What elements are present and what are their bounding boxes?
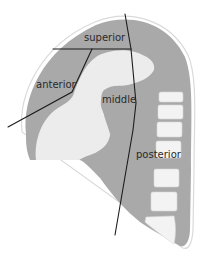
vertebra-6	[151, 192, 177, 211]
vertebra-7	[145, 216, 176, 244]
label-posterior: posterior	[136, 149, 182, 160]
mediastinum-diagram: superior anterior middle posterior	[0, 0, 205, 264]
label-middle: middle	[102, 94, 136, 105]
vertebra-3	[157, 122, 182, 137]
vertebra-5	[154, 169, 179, 187]
vertebra-2	[158, 105, 183, 119]
label-superior: superior	[84, 32, 126, 43]
label-anterior: anterior	[36, 79, 77, 90]
vertebra-1	[159, 92, 183, 102]
diagram-canvas: superior anterior middle posterior	[0, 0, 205, 264]
